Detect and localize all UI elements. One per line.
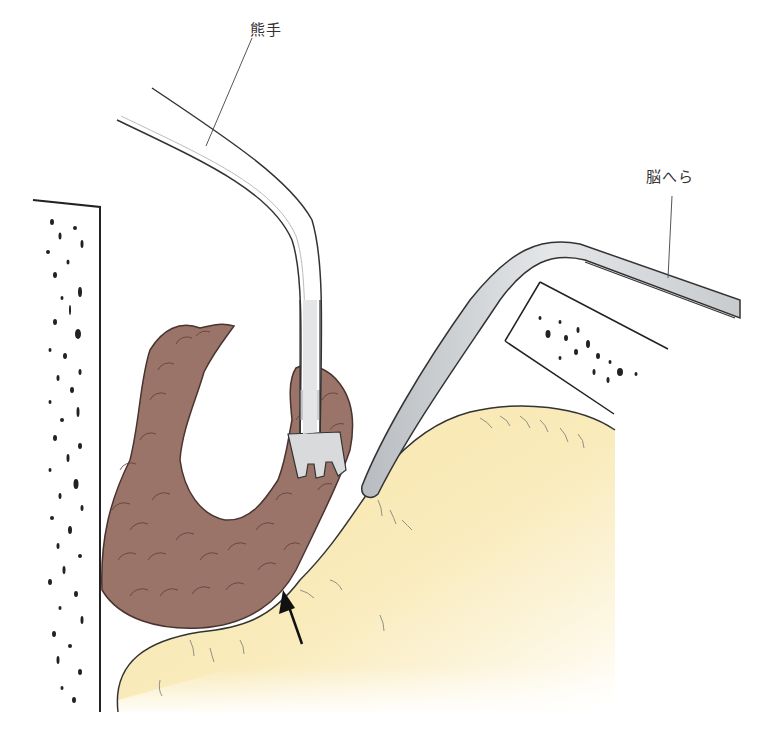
- skull-bone-right: [505, 282, 668, 414]
- rake-label: 熊手: [250, 18, 282, 39]
- surgical-illustration: [0, 0, 761, 744]
- rake-leader-line: [206, 38, 252, 146]
- brain-spatula-label: 脳へら: [646, 165, 694, 186]
- spatula-leader-line: [668, 196, 672, 278]
- skull-bone-left: [33, 200, 100, 712]
